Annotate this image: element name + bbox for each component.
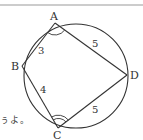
- side-label-DA: 5: [92, 38, 98, 49]
- side-CD: [58, 75, 127, 128]
- vertex-label-B: B: [11, 60, 19, 73]
- partial-question-text: ぅよ。: [0, 113, 30, 126]
- side-label-CD: 5: [92, 104, 98, 115]
- vertex-label-C: C: [53, 129, 61, 140]
- angle-mark-C-inner: [53, 118, 66, 121]
- vertex-label-D: D: [130, 69, 139, 82]
- side-label-AB: 3: [38, 45, 44, 56]
- side-label-BC: 4: [40, 84, 46, 95]
- side-DA: [55, 23, 127, 75]
- circumcircle: [24, 24, 128, 128]
- vertex-label-A: A: [49, 10, 59, 23]
